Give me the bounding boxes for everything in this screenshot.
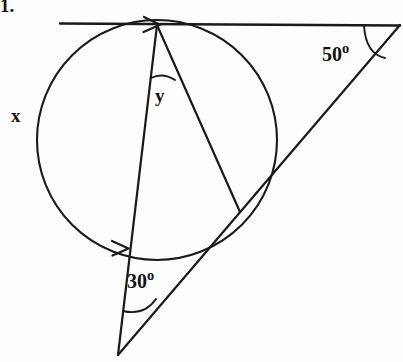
chord-right <box>157 25 240 212</box>
tangent-line <box>60 24 400 26</box>
figure-page: 1. x y 50o 30o <box>0 0 403 362</box>
angle-arc-30 <box>123 299 156 312</box>
angle-30-value: 30 <box>127 270 147 292</box>
degree-symbol-50: o <box>342 40 349 56</box>
angle-arc-50 <box>364 26 385 58</box>
item-number-label: 1. <box>0 0 14 15</box>
arc-label-x: x <box>11 106 21 125</box>
angle-label-y: y <box>155 86 165 105</box>
angle-50-value: 50 <box>322 43 342 65</box>
angle-label-50: 50o <box>322 44 349 64</box>
circle-shape <box>37 20 277 260</box>
degree-symbol-30: o <box>147 267 154 283</box>
angle-arc-y <box>151 75 175 80</box>
angle-label-30: 30o <box>127 271 154 291</box>
